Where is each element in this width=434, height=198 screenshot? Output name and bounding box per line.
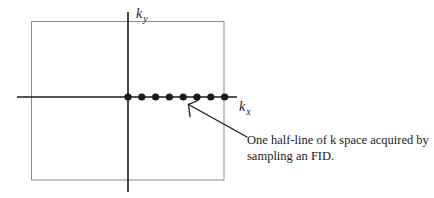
annotation-caption: One half-line of k space acquired by sam… — [247, 133, 429, 164]
sample-point-dot — [221, 93, 228, 100]
caption-line-1: One half-line of k space acquired by — [247, 133, 429, 149]
sample-point-dot — [138, 93, 145, 100]
sample-point-dot — [180, 93, 187, 100]
caption-line-2: sampling an FID. — [247, 149, 429, 165]
kx-label: kx — [239, 99, 251, 117]
k-space-diagram: ky kx — [0, 0, 434, 198]
sample-point-dot — [207, 93, 214, 100]
kx-label-sub: x — [245, 106, 251, 117]
sample-point-dot — [124, 93, 131, 100]
sample-point-dot — [152, 93, 159, 100]
sample-point-dot — [166, 93, 173, 100]
ky-label-main: k — [136, 6, 143, 21]
sample-point-dot — [193, 93, 200, 100]
ky-label-sub: y — [142, 13, 148, 24]
kx-label-main: k — [239, 99, 246, 114]
